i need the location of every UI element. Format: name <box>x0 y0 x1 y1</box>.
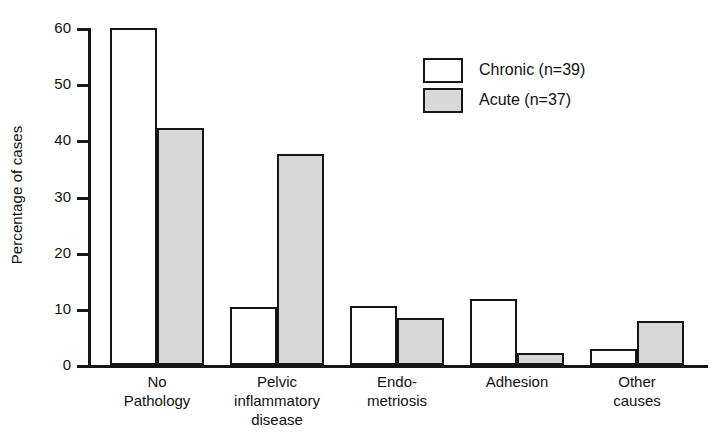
y-axis-tick: 10 <box>77 309 88 312</box>
bar-acute <box>157 128 204 365</box>
y-axis-tick-label: 0 <box>63 355 71 375</box>
bar-chart-figure: Percentage of cases 0102030405060 No Pat… <box>0 0 727 448</box>
bar-chronic <box>590 349 637 365</box>
x-axis-category-label: Endo- metriosis <box>337 372 457 410</box>
y-axis-tick-label: 40 <box>54 130 71 150</box>
bar-acute <box>517 353 564 365</box>
bar-chronic <box>230 307 277 365</box>
bar-acute <box>397 318 444 365</box>
bar-acute <box>637 321 684 365</box>
y-axis-tick: 30 <box>77 197 88 200</box>
x-axis-line <box>88 365 708 368</box>
y-axis-tick-label: 60 <box>54 18 71 38</box>
y-axis-tick-label: 20 <box>54 243 71 263</box>
y-axis-tick: 60 <box>77 28 88 31</box>
y-axis-tick-label: 10 <box>54 299 71 319</box>
x-axis-category-label: Adhesion <box>457 372 577 391</box>
y-axis-tick: 40 <box>77 140 88 143</box>
x-axis-category-label: Other causes <box>577 372 697 410</box>
bar-chronic <box>350 306 397 365</box>
bar-chronic <box>470 299 517 365</box>
legend-swatch-chronic <box>423 58 463 83</box>
y-axis-tick: 0 <box>77 365 88 368</box>
legend-item: Chronic (n=39) <box>423 56 693 84</box>
x-axis-category-label: No Pathology <box>97 372 217 410</box>
chart-legend: Chronic (n=39)Acute (n=37) <box>423 56 693 116</box>
y-axis-tick: 50 <box>77 84 88 87</box>
legend-label: Chronic (n=39) <box>479 61 585 79</box>
legend-item: Acute (n=37) <box>423 86 693 114</box>
y-axis-tick: 20 <box>77 253 88 256</box>
legend-swatch-acute <box>423 88 463 113</box>
y-axis-line <box>88 28 91 368</box>
y-axis-tick-label: 30 <box>54 187 71 207</box>
bar-acute <box>277 154 324 365</box>
bar-chronic <box>110 28 157 365</box>
y-axis-tick-label: 50 <box>54 74 71 94</box>
y-axis-title: Percentage of cases <box>8 15 34 375</box>
x-axis-category-label: Pelvic inflammatory disease <box>217 372 337 429</box>
legend-label: Acute (n=37) <box>479 91 571 109</box>
